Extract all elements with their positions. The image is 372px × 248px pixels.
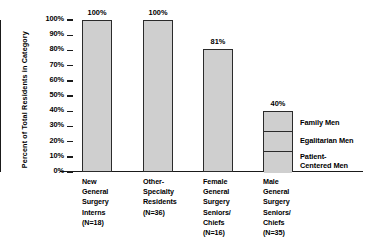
y-axis-tick-label: 90% (28, 30, 64, 37)
y-axis-tick-mark (67, 95, 73, 96)
legend-label: Patient- Centered Men (300, 152, 348, 171)
bar-segment (264, 132, 292, 152)
y-axis-tick-label: 70% (28, 61, 64, 68)
y-axis-tick-label: 60% (28, 76, 64, 83)
y-axis-tick-mark (67, 65, 73, 66)
y-axis-tick-mark (67, 126, 73, 127)
y-axis-tick-mark (67, 19, 73, 20)
y-axis-tick-label: 10% (28, 152, 64, 159)
y-axis-tick-label: 30% (28, 121, 64, 128)
y-axis-tick-label: 20% (28, 137, 64, 144)
x-axis-category-label: Male General Surgery Seniors/ Chiefs (N=… (263, 177, 291, 238)
bar (143, 20, 173, 172)
y-axis-tick-label: 100% (28, 15, 64, 22)
y-axis-tick-label: 40% (28, 106, 64, 113)
legend-label: Egalitarian Men (300, 136, 354, 145)
y-axis-tick-mark (67, 111, 73, 112)
x-axis-category-label: Female General Surgery Seniors/ Chiefs (… (203, 177, 231, 238)
y-axis-tick-label: 0% (28, 167, 64, 174)
y-axis-tick-mark (67, 35, 73, 36)
y-axis-tick-mark (67, 156, 73, 157)
bar-chart: Percent of Total Residents in Category 1… (0, 0, 372, 248)
y-axis-tick-label: 80% (28, 45, 64, 52)
bar-segment (264, 152, 292, 173)
x-axis-category-label: New General Surgery Interns (N=18) (82, 177, 109, 228)
bar-value-label: 40% (263, 100, 293, 107)
bar (82, 20, 112, 172)
bar-value-label: 100% (143, 9, 173, 16)
bar (263, 111, 293, 172)
y-axis-tick-label: 50% (28, 91, 64, 98)
y-axis-tick-mark (67, 50, 73, 51)
y-axis-line (0, 20, 1, 172)
bar-segment (264, 112, 292, 132)
bar-value-label: 81% (203, 38, 233, 45)
y-axis-tick-mark (67, 80, 73, 81)
y-axis-tick-mark (67, 141, 73, 142)
legend-label: Family Men (300, 118, 340, 127)
bar-value-label: 100% (82, 9, 112, 16)
x-axis-category-label: Other- Specialty Residents (N=36) (143, 177, 177, 218)
y-axis-tick-mark (67, 171, 73, 172)
bar (203, 49, 233, 172)
